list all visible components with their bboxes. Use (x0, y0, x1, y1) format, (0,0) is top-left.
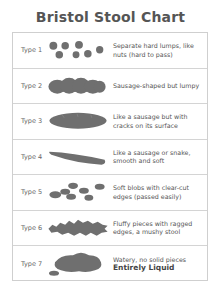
type-1-illustration-icon (47, 33, 109, 68)
type-6-illustration-icon (47, 211, 109, 246)
type-label: Type 7 (21, 260, 42, 268)
type-1-row: Type 1 Separate hard lumps, like nuts (h… (13, 33, 207, 69)
type-description: Separate hard lumps, like nuts (hard to … (113, 42, 207, 59)
type-label: Type 2 (21, 82, 42, 90)
type-3-illustration-icon (47, 104, 109, 139)
stool-chart-table: Type 1 Separate hard lumps, like nuts (h… (12, 32, 208, 281)
type-description: Fluffy pieces with ragged edges, a mushy… (113, 219, 207, 236)
type-description: Soft blobs with clear-cut edges (passed … (113, 184, 207, 201)
type-3-row: Type 3 Like a sausage but with cracks on… (13, 104, 207, 140)
type-description: Sausage-shaped but lumpy (113, 82, 207, 91)
type-5-illustration-icon (47, 175, 109, 210)
type-label: Type 1 (21, 46, 42, 54)
type-label: Type 4 (21, 153, 42, 161)
type-label: Type 3 (21, 117, 42, 125)
type-4-illustration-icon (47, 140, 109, 175)
type-7-row: Type 7 Watery, no solid pieces Entirely … (13, 246, 207, 282)
type-2-row: Type 2 Sausage-shaped but lumpy (13, 69, 207, 105)
type-description: Like a sausage or snake, smooth and soft (113, 148, 207, 165)
type-label: Type 6 (21, 224, 42, 232)
type-label: Type 5 (21, 188, 42, 196)
type-description: Like a sausage but with cracks on its su… (113, 113, 207, 130)
type-4-row: Type 4 Like a sausage or snake, smooth a… (13, 140, 207, 176)
type-description: Watery, no solid pieces Entirely Liquid (113, 255, 207, 272)
type-5-row: Type 5 Soft blobs with clear-cut edges (… (13, 175, 207, 211)
chart-title: Bristol Stool Chart (0, 9, 221, 25)
type-7-illustration-icon (47, 246, 109, 282)
entirely-liquid-label: Entirely Liquid (113, 264, 207, 273)
type-6-row: Type 6 Fluffy pieces with ragged edges, … (13, 211, 207, 247)
type-2-illustration-icon (47, 69, 109, 104)
